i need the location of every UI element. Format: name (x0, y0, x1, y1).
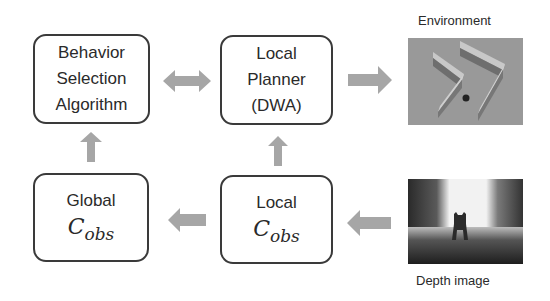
global-title: Global (66, 188, 115, 214)
environment-label: Environment (418, 13, 491, 28)
maze-walls-icon (408, 38, 523, 125)
local-cobs-symbol: Cobs (253, 216, 300, 249)
up-arrow-planner-icon (268, 136, 288, 166)
depth-label: Depth image (416, 273, 490, 288)
right-arrow-icon (348, 66, 392, 94)
global-cobs-node: Global Cobs (33, 173, 149, 262)
bidirectional-arrow-icon (163, 69, 211, 93)
local-title: Local (256, 190, 297, 216)
dog-silhouette-icon (452, 212, 468, 242)
left-arrow-depth-icon (347, 210, 391, 236)
planner-line-3: (DWA) (251, 93, 301, 119)
behavior-selection-node: Behavior Selection Algorithm (33, 34, 150, 124)
planner-line-2: Planner (247, 67, 306, 93)
depth-image (408, 179, 523, 264)
local-planner-node: Local Planner (DWA) (220, 35, 333, 125)
behavior-line-3: Algorithm (56, 92, 128, 118)
planner-line-1: Local (256, 41, 297, 67)
environment-image (408, 38, 523, 125)
behavior-line-2: Selection (57, 66, 127, 92)
left-arrow-global-icon (168, 208, 206, 232)
up-arrow-behavior-icon (80, 132, 102, 162)
global-cobs-symbol: Cobs (68, 214, 115, 247)
local-cobs-node: Local Cobs (220, 175, 333, 264)
behavior-line-1: Behavior (58, 40, 125, 66)
